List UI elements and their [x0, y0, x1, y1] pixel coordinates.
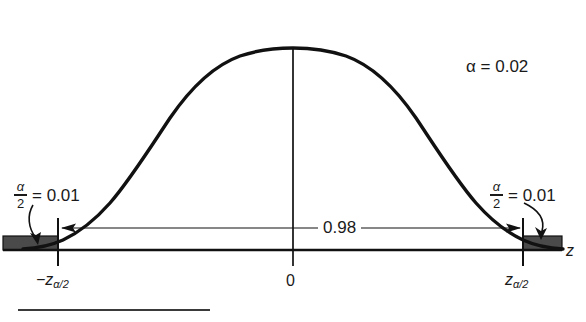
z-axis-name-label: z [566, 243, 574, 259]
left-tail-value: = 0.01 [32, 186, 80, 206]
right-critical-symbol: z [505, 271, 513, 288]
confidence-level-label: 0.98 [318, 219, 361, 236]
alpha-total-label: α = 0.02 [466, 58, 528, 75]
left-tail-fraction: α 2 [14, 180, 27, 210]
right-tail-value: = 0.01 [508, 186, 556, 206]
right-tail-alpha-label: α 2 = 0.01 [490, 181, 556, 211]
left-tail-numerator: α [15, 180, 26, 194]
right-critical-subscript: α/2 [513, 278, 528, 290]
left-critical-subscript: α/2 [53, 278, 68, 290]
center-tick-label: 0 [286, 273, 295, 289]
left-critical-value-label: −zα/2 [36, 272, 69, 290]
right-tail-denominator: 2 [491, 196, 502, 210]
left-tail-alpha-label: α 2 = 0.01 [14, 181, 80, 211]
normal-distribution-figure: α = 0.02 α 2 = 0.01 α 2 = 0.01 0.98 0 −z… [0, 0, 586, 322]
left-tail-denominator: 2 [15, 196, 26, 210]
right-tail-numerator: α [491, 180, 502, 194]
right-tail-fraction: α 2 [490, 180, 503, 210]
left-critical-symbol: −z [36, 271, 53, 288]
right-critical-value-label: zα/2 [505, 272, 528, 290]
